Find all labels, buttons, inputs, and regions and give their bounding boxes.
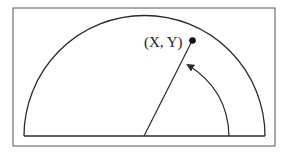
semicircle-diagram bbox=[0, 0, 288, 155]
radius-line bbox=[144, 41, 192, 136]
point-label: (X, Y) bbox=[144, 35, 183, 50]
point-marker bbox=[189, 37, 196, 44]
outer-frame bbox=[13, 8, 275, 146]
angle-arrow-arc bbox=[188, 65, 229, 136]
